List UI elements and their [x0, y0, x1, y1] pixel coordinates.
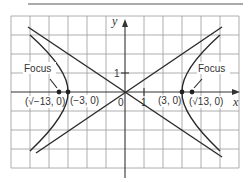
focus-arrows — [50, 79, 202, 88]
left-focus-coord-label: (√−13, 0) — [25, 96, 65, 107]
origin-label: 0 — [118, 97, 124, 108]
y-tick-label: 1 — [114, 68, 120, 79]
right-focus-coord-label: (√13, 0) — [189, 96, 223, 107]
right-vertex-point — [180, 90, 185, 95]
right-vertex-coord-label: (3, 0) — [158, 95, 181, 106]
left-vertex-point — [66, 90, 71, 95]
y-axis-label: y — [111, 14, 118, 28]
left-focus-arrow-icon — [50, 79, 57, 88]
x-tick-label: 1 — [141, 97, 147, 108]
y-axis-arrow-icon — [122, 19, 128, 27]
hyperbola-diagram: Focus Focus y x 1 1 0 (√−13, 0) (−3, 0) … — [0, 0, 251, 182]
left-vertex-coord-label: (−3, 0) — [70, 95, 99, 106]
left-focus-point — [57, 90, 62, 95]
focus-left-label: Focus — [24, 63, 51, 74]
x-axis-label: x — [232, 95, 239, 109]
right-focus-point — [190, 90, 195, 95]
focus-right-label: Focus — [198, 63, 225, 74]
